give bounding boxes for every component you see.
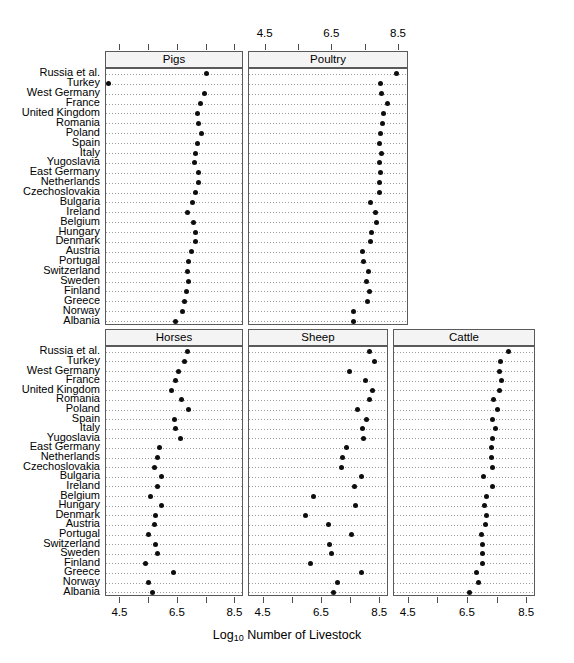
grid-row <box>249 525 387 526</box>
data-point <box>172 417 177 422</box>
grid-row <box>106 133 242 134</box>
plot-area-sheep <box>249 347 387 595</box>
data-point <box>480 561 485 566</box>
data-point <box>490 436 495 441</box>
grid-row <box>394 352 534 353</box>
data-point <box>361 436 366 441</box>
data-point <box>184 289 189 294</box>
x-axis-title-suffix: Number of Livestock <box>244 628 361 642</box>
grid-row <box>249 496 387 497</box>
panel-strip-label-pigs: Pigs <box>163 53 185 65</box>
grid-row <box>394 381 534 382</box>
data-point <box>193 239 198 244</box>
data-point <box>378 81 383 86</box>
data-point <box>196 170 201 175</box>
x-tick <box>206 597 207 603</box>
grid-row <box>394 506 534 507</box>
grid-row <box>394 544 534 545</box>
grid-row <box>106 486 242 487</box>
x-tick-label: 8.5 <box>378 27 418 40</box>
grid-row <box>394 419 534 420</box>
grid-row <box>249 212 407 213</box>
x-tick <box>350 597 351 603</box>
grid-row <box>394 361 534 362</box>
grid-row <box>106 74 242 75</box>
data-point <box>153 513 158 518</box>
grid-row <box>249 592 387 593</box>
grid-row <box>106 84 242 85</box>
x-tick <box>148 44 149 50</box>
x-tick <box>234 44 235 50</box>
data-point <box>385 101 390 106</box>
grid-row <box>106 371 242 372</box>
data-point <box>482 503 487 508</box>
data-point <box>380 121 385 126</box>
data-point <box>176 369 181 374</box>
grid-row <box>394 477 534 478</box>
x-tick <box>177 44 178 50</box>
data-point <box>204 71 209 76</box>
data-point <box>155 455 160 460</box>
grid-row <box>394 390 534 391</box>
grid-row <box>249 583 387 584</box>
panel-strip-label-poultry: Poultry <box>310 53 346 65</box>
grid-row <box>394 554 534 555</box>
data-point <box>506 349 511 354</box>
data-point <box>378 170 383 175</box>
data-point <box>353 503 358 508</box>
grid-row <box>106 410 242 411</box>
x-tick <box>119 44 120 50</box>
grid-row <box>106 563 242 564</box>
grid-row <box>394 410 534 411</box>
data-point <box>173 378 178 383</box>
grid-row <box>394 448 534 449</box>
data-point <box>359 570 364 575</box>
grid-row <box>106 400 242 401</box>
grid-row <box>249 438 387 439</box>
data-point <box>186 259 191 264</box>
data-point <box>377 141 382 146</box>
grid-row <box>249 252 407 253</box>
x-tick <box>298 44 299 50</box>
grid-row <box>249 321 407 322</box>
data-point <box>185 210 190 215</box>
data-point <box>326 522 331 527</box>
grid-row <box>106 525 242 526</box>
panel-horses <box>105 346 243 596</box>
data-point <box>178 436 183 441</box>
grid-row <box>394 535 534 536</box>
grid-row <box>106 282 242 283</box>
x-tick-label: 6.5 <box>447 606 487 619</box>
grid-row <box>106 448 242 449</box>
data-point <box>467 590 472 595</box>
data-point <box>192 160 197 165</box>
data-point <box>182 299 187 304</box>
grid-row <box>106 592 242 593</box>
x-tick <box>265 44 266 50</box>
x-tick <box>321 597 322 603</box>
x-axis-title-prefix: Log <box>213 628 234 642</box>
grid-row <box>106 212 242 213</box>
data-point <box>481 474 486 479</box>
country-label-albania: Albania <box>63 315 100 326</box>
plot-area-poultry <box>249 69 407 324</box>
data-point <box>152 465 157 470</box>
x-tick <box>437 597 438 603</box>
grid-row <box>249 467 387 468</box>
data-point <box>311 494 316 499</box>
data-point <box>367 289 372 294</box>
panel-strip-label-cattle: Cattle <box>449 331 479 343</box>
grid-row <box>249 563 387 564</box>
data-point <box>493 426 498 431</box>
data-point <box>153 542 158 547</box>
data-point <box>171 570 176 575</box>
data-point <box>339 465 344 470</box>
grid-row <box>106 242 242 243</box>
data-point <box>340 455 345 460</box>
data-point <box>368 200 373 205</box>
data-point <box>106 81 111 86</box>
x-tick-label: 4.5 <box>99 606 139 619</box>
x-tick <box>365 44 366 50</box>
grid-row <box>249 84 407 85</box>
data-point <box>497 369 502 374</box>
